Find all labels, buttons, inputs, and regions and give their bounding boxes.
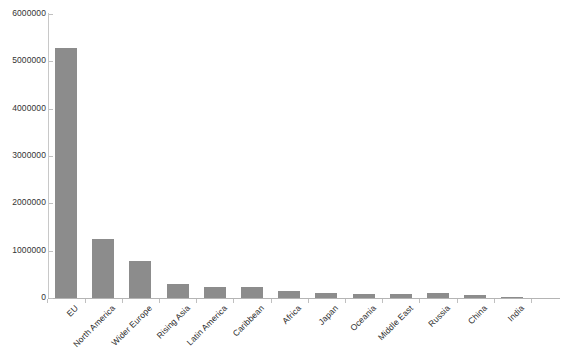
- x-axis-tick-label: Middle East: [376, 303, 415, 342]
- y-axis-tick-label: 0: [41, 292, 46, 302]
- bar-chart: 6000000500000040000003000000200000010000…: [0, 0, 565, 363]
- y-axis-tick-label: 1000000: [12, 245, 46, 255]
- y-axis-tick-label: 3000000: [12, 150, 46, 160]
- bar: [353, 294, 375, 298]
- x-axis-tick-label: India: [506, 303, 526, 323]
- x-axis-tick-mark: [494, 299, 495, 303]
- y-axis-tick-label: 5000000: [12, 55, 46, 65]
- x-axis-tick-mark: [122, 299, 123, 303]
- x-axis-tick-label: Caribbean: [231, 303, 266, 338]
- bar: [501, 297, 523, 298]
- bar: [204, 287, 226, 298]
- x-axis-tick-mark: [159, 299, 160, 303]
- bar: [241, 287, 263, 298]
- x-axis-tick-label: Africa: [280, 303, 303, 326]
- x-axis-tick-mark: [457, 299, 458, 303]
- x-axis-tick-mark: [308, 299, 309, 303]
- x-axis-tick-label: China: [466, 303, 489, 326]
- bar: [427, 293, 449, 298]
- bar: [55, 48, 77, 298]
- y-axis-tick-label: 2000000: [12, 197, 46, 207]
- bar: [278, 291, 300, 298]
- x-axis-tick-mark: [531, 299, 532, 303]
- x-axis-tick-mark: [345, 299, 346, 303]
- x-axis-tick-label: Oceania: [348, 303, 378, 333]
- bar: [464, 295, 486, 298]
- x-axis-tick-label: Rising Asia: [154, 303, 192, 341]
- x-axis-tick-mark: [85, 299, 86, 303]
- y-axis-tick-label: 4000000: [12, 103, 46, 113]
- y-axis-tick-label: 6000000: [12, 8, 46, 18]
- x-axis-tick-mark: [382, 299, 383, 303]
- x-axis-tick-mark: [233, 299, 234, 303]
- bar: [167, 284, 189, 298]
- y-axis-tick-mark: [49, 298, 53, 299]
- x-axis-tick-label: Japan: [317, 303, 341, 327]
- bar: [315, 293, 337, 298]
- x-axis-tick-mark: [271, 299, 272, 303]
- x-axis-tick-label: EU: [65, 303, 81, 319]
- plot-area: [48, 14, 560, 298]
- x-axis-tick-mark: [419, 299, 420, 303]
- x-axis-tick-mark: [47, 299, 48, 303]
- bar: [92, 239, 114, 298]
- x-axis-tick-label: Russia: [426, 303, 452, 329]
- x-axis-line: [48, 298, 560, 299]
- bar: [129, 261, 151, 298]
- bar: [390, 294, 412, 298]
- x-axis-tick-mark: [196, 299, 197, 303]
